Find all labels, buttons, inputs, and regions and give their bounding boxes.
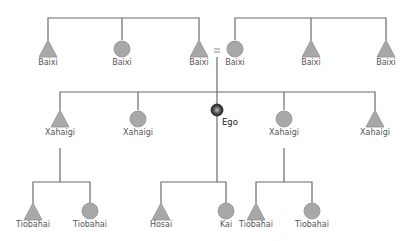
person-label: Tiobahai <box>16 221 50 229</box>
person-label: Tiobahai <box>239 221 273 229</box>
ego-label: Ego <box>222 118 238 127</box>
person-label: Xahaigi <box>45 129 75 137</box>
female-circle-icon <box>304 203 320 219</box>
person-label: Baixi <box>225 59 245 67</box>
male-triangle-icon <box>51 110 69 127</box>
person-label: Baixi <box>112 59 132 67</box>
kinship-diagram <box>0 0 411 241</box>
male-triangle-icon <box>366 110 384 127</box>
male-triangle-icon <box>24 203 42 220</box>
person-label: Baixi <box>301 59 321 67</box>
female-circle-icon <box>227 41 243 57</box>
person-label: Kai <box>220 221 232 229</box>
female-circle-icon <box>218 203 234 219</box>
female-circle-icon <box>82 203 98 219</box>
person-label: Hosai <box>150 221 172 229</box>
male-triangle-icon <box>152 203 170 220</box>
person-label: Baixi <box>189 59 209 67</box>
person-label: Tiobahai <box>295 221 329 229</box>
male-triangle-icon <box>247 203 265 220</box>
person-label: Baixi <box>376 59 396 67</box>
marriage-equals-icon <box>214 49 220 52</box>
male-triangle-icon <box>377 40 395 57</box>
female-circle-icon <box>130 111 146 127</box>
female-circle-icon <box>276 111 292 127</box>
person-label: Tiobahai <box>73 221 107 229</box>
person-label: Xahaigi <box>269 129 299 137</box>
person-label: Xahaigi <box>360 129 390 137</box>
ego-circle-icon <box>211 104 223 116</box>
male-triangle-icon <box>39 40 57 57</box>
person-label: Baixi <box>38 59 58 67</box>
male-triangle-icon <box>302 40 320 57</box>
male-triangle-icon <box>190 40 208 57</box>
female-circle-icon <box>114 41 130 57</box>
person-label: Xahaigi <box>123 129 153 137</box>
connector-lines <box>33 18 386 203</box>
